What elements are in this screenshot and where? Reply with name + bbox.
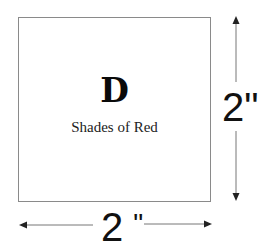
width-dimension-label: 2" xyxy=(101,207,143,248)
height-dimension-label: 2" xyxy=(222,87,258,127)
width-unit: " xyxy=(133,208,143,239)
width-number: 2 xyxy=(101,205,123,248)
